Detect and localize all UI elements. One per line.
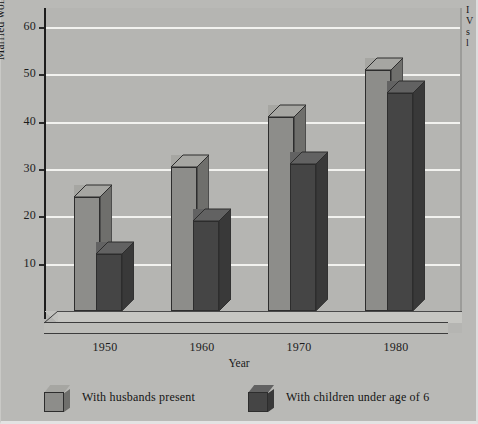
plot-area [44, 8, 462, 333]
bar [193, 209, 219, 311]
base-platform [44, 311, 462, 333]
bar [290, 152, 316, 311]
bar-side-face [316, 152, 328, 311]
bar-top-face [193, 209, 219, 221]
base-front-face [44, 322, 448, 334]
x-axis-title: Year [0, 357, 478, 369]
legend-swatch-side [64, 389, 70, 412]
plot-right-edge [460, 8, 462, 319]
y-axis-title: Married women in the work force [0, 0, 6, 60]
x-tick-label: 1960 [172, 340, 232, 355]
x-tick-label: 1950 [75, 340, 135, 355]
chart-legend: With husbands presentWith children under… [0, 382, 478, 416]
y-axis-line [44, 8, 46, 319]
y-tick-label: 60 [2, 19, 36, 34]
legend-swatch-front [44, 392, 64, 412]
gridline [44, 27, 462, 29]
bar-top-face [387, 81, 413, 93]
bar-front-face [193, 221, 219, 311]
bar-top-face [268, 105, 294, 117]
legend-label: With children under age of 6 [286, 390, 429, 405]
bar-front-face [387, 93, 413, 311]
legend-swatch-light-icon [44, 385, 70, 411]
base-left-edge-line [44, 311, 61, 325]
bar-top-face [171, 155, 197, 167]
clipped-margin-note: IVsl [466, 4, 478, 48]
bar-top-face [96, 242, 122, 254]
margin-note-line: I [466, 4, 478, 15]
chart-page: 102030405060 Married women in the work f… [0, 0, 478, 424]
y-tick-label: 50 [2, 66, 36, 81]
legend-label: With husbands present [82, 390, 195, 405]
bar-top-face [74, 185, 100, 197]
bar-side-face [413, 81, 425, 311]
bar-top-face [290, 152, 316, 164]
legend-swatch-dark-icon [248, 385, 274, 411]
legend-swatch-side [268, 389, 274, 412]
bar [387, 81, 413, 311]
bar [96, 242, 122, 311]
margin-note-line: s [466, 26, 478, 37]
bar-front-face [96, 254, 122, 311]
bar-side-face [219, 209, 231, 311]
y-tick-label: 40 [2, 114, 36, 129]
margin-note-line: V [466, 15, 478, 26]
y-tick-label: 10 [2, 256, 36, 271]
y-tick-label: 30 [2, 161, 36, 176]
margin-note-line: l [466, 37, 478, 48]
legend-swatch-front [248, 392, 268, 412]
bar-top-face [365, 58, 391, 70]
bar-front-face [290, 164, 316, 311]
x-tick-label: 1970 [269, 340, 329, 355]
y-tick-label: 20 [2, 208, 36, 223]
x-tick-label: 1980 [366, 340, 426, 355]
